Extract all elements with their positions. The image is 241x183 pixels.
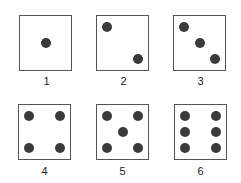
- die-label-6: 6: [174, 165, 227, 177]
- pip-dot-icon: [211, 143, 221, 153]
- die-face-4: [18, 104, 71, 160]
- pip-dot-icon: [133, 111, 143, 121]
- pip-dot-icon: [118, 127, 128, 137]
- pip-dot-icon: [41, 38, 51, 48]
- pip-dot-icon: [210, 54, 220, 64]
- pip-dot-icon: [180, 111, 190, 121]
- die-label-4: 4: [18, 165, 71, 177]
- die-label-1: 1: [20, 75, 73, 87]
- pip-dot-icon: [55, 143, 65, 153]
- die-face-2: [96, 15, 149, 71]
- pip-dot-icon: [24, 111, 34, 121]
- pip-dot-icon: [55, 111, 65, 121]
- pip-dot-icon: [179, 22, 189, 32]
- pip-dot-icon: [180, 127, 190, 137]
- pip-dot-icon: [133, 54, 143, 64]
- die-label-2: 2: [97, 75, 150, 87]
- pip-dot-icon: [133, 143, 143, 153]
- die-face-5: [96, 104, 149, 160]
- pip-dot-icon: [24, 143, 34, 153]
- die-label-3: 3: [174, 75, 227, 87]
- pip-dot-icon: [102, 111, 112, 121]
- pip-dot-icon: [195, 38, 205, 48]
- die-label-5: 5: [96, 165, 149, 177]
- pip-dot-icon: [180, 143, 190, 153]
- pip-dot-icon: [211, 127, 221, 137]
- pip-dot-icon: [102, 143, 112, 153]
- pip-dot-icon: [211, 111, 221, 121]
- pip-dot-icon: [102, 22, 112, 32]
- die-face-1: [19, 15, 72, 71]
- die-face-6: [174, 104, 227, 160]
- die-face-3: [173, 15, 226, 71]
